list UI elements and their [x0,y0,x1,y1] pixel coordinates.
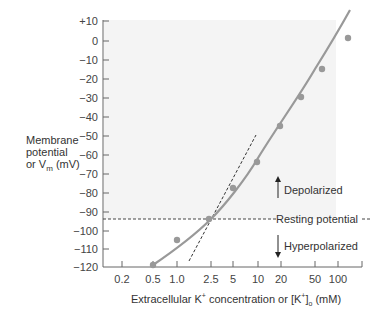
svg-text:5: 5 [230,273,236,285]
svg-text:1.0: 1.0 [169,273,184,285]
svg-text:−40: −40 [79,111,98,123]
svg-text:−110: −110 [74,243,98,255]
y-title-post: (mV) [53,158,80,170]
svg-text:0.5: 0.5 [145,273,160,285]
svg-text:+10: +10 [79,15,98,27]
svg-text:−20: −20 [79,73,98,85]
svg-text:−50: −50 [79,130,98,142]
x-axis-title: Extracellular K+ concentration or [K+]o … [131,292,341,307]
svg-text:−80: −80 [79,187,98,199]
svg-text:0.2: 0.2 [114,273,129,285]
svg-text:2.5: 2.5 [203,273,218,285]
y-title-line1: Membrane [26,134,80,146]
svg-text:0: 0 [92,35,98,47]
y-title-line3: or Vm (mV) [26,158,80,175]
svg-text:20: 20 [275,273,287,285]
x-tick-labels: 0.2 0.5 1.0 2.5 5 10 20 50 100 [114,273,347,285]
y-title-pre: or V [26,158,46,170]
svg-text:10: 10 [252,273,264,285]
y-axis-title: Membrane potential or Vm (mV) [26,134,80,175]
resting-potential-label: Resting potential [276,213,358,225]
depolarized-label: Depolarized [284,184,343,196]
svg-text:−100: −100 [73,225,98,237]
svg-text:−90: −90 [79,206,98,218]
hyperpolarized-arrow [275,235,281,258]
svg-text:−10: −10 [79,54,98,66]
svg-text:100: 100 [329,273,347,285]
svg-text:−70: −70 [79,168,98,180]
y-title-line2: potential [26,146,80,158]
y-title-sub: m [46,164,53,173]
svg-text:−120: −120 [73,261,98,273]
svg-text:50: 50 [309,273,321,285]
svg-text:−60: −60 [79,149,98,161]
hyperpolarized-label: Hyperpolarized [284,240,358,252]
svg-text:−30: −30 [79,92,98,104]
